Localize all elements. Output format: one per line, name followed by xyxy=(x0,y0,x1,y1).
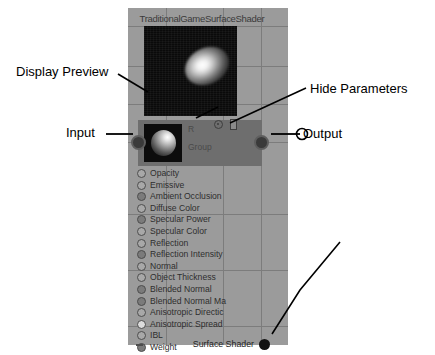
display-preview[interactable] xyxy=(144,26,237,116)
parameter-label: Blended Normal Ma xyxy=(150,296,226,308)
parameter-row[interactable]: Object Thickness xyxy=(136,272,272,284)
parameter-port[interactable] xyxy=(137,285,146,294)
parameter-port[interactable] xyxy=(137,320,146,329)
output-port[interactable] xyxy=(254,135,269,150)
output-label: Surface Shader xyxy=(193,338,254,351)
parameter-label: Normal xyxy=(150,261,178,273)
hide-parameters-icon[interactable] xyxy=(230,119,237,130)
parameter-row[interactable]: Reflection Intensity xyxy=(136,249,272,261)
shader-node[interactable]: TraditionalGameSurfaceShader R Group Opa… xyxy=(132,12,272,340)
parameter-row[interactable]: Anisotropic Spread xyxy=(136,319,272,331)
parameter-label: Diffuse Color xyxy=(150,203,200,215)
parameter-row[interactable]: Diffuse Color xyxy=(136,203,272,215)
node-title: TraditionalGameSurfaceShader xyxy=(132,12,272,25)
annotation-output: Output xyxy=(303,126,342,141)
parameter-port[interactable] xyxy=(137,192,146,201)
material-sphere-thumbnail[interactable] xyxy=(144,124,182,162)
parameter-row[interactable]: Blended Normal Ma xyxy=(136,296,272,308)
parameter-label: Reflection xyxy=(150,238,188,250)
input-port[interactable] xyxy=(131,135,146,150)
parameter-row[interactable]: Reflection xyxy=(136,238,272,250)
annotation-input: Input xyxy=(66,125,95,140)
parameter-row[interactable]: Anisotropic Directic xyxy=(136,307,272,319)
surface-shader-output-port[interactable] xyxy=(259,339,270,350)
parameter-label: Blended Normal xyxy=(150,284,212,296)
parameter-port[interactable] xyxy=(137,181,146,190)
parameter-port[interactable] xyxy=(137,308,146,317)
parameter-row[interactable]: Emissive xyxy=(136,180,272,192)
parameter-label: Reflection Intensity xyxy=(150,249,223,261)
annotation-hide-parameters: Hide Parameters xyxy=(310,81,408,96)
parameter-row[interactable]: Ambient Occlusion xyxy=(136,191,272,203)
parameter-label: Ambient Occlusion xyxy=(150,191,222,203)
parameter-port[interactable] xyxy=(137,204,146,213)
parameter-label: Emissive xyxy=(150,180,184,192)
parameter-label: Specular Color xyxy=(150,226,207,238)
gear-icon[interactable] xyxy=(214,120,223,129)
parameter-label: Opacity xyxy=(150,168,179,180)
parameter-label: Specular Power xyxy=(150,214,211,226)
parameter-list: OpacityEmissiveAmbient OcclusionDiffuse … xyxy=(136,168,272,354)
output-row[interactable]: Surface Shader xyxy=(136,338,272,351)
parameter-row[interactable]: Specular Color xyxy=(136,226,272,238)
output-tick xyxy=(136,344,143,346)
node-header-strip: R Group xyxy=(138,120,262,166)
parameter-port[interactable] xyxy=(137,262,146,271)
parameter-row[interactable]: Specular Power xyxy=(136,214,272,226)
parameter-row[interactable]: Blended Normal xyxy=(136,284,272,296)
parameter-port[interactable] xyxy=(137,239,146,248)
sphere-icon xyxy=(151,130,176,156)
parameter-port[interactable] xyxy=(137,227,146,236)
annotation-display-preview: Display Preview xyxy=(16,64,108,79)
shader-node-diagram: TraditionalGameSurfaceShader R Group Opa… xyxy=(0,0,435,355)
node-header-label-r: R xyxy=(188,124,194,134)
parameter-port[interactable] xyxy=(137,273,146,282)
parameter-port[interactable] xyxy=(137,250,146,259)
node-header-label-group: Group xyxy=(188,142,212,152)
parameter-label: Anisotropic Directic xyxy=(150,307,224,319)
parameter-port[interactable] xyxy=(137,169,146,178)
parameter-port[interactable] xyxy=(137,297,146,306)
parameter-label: Anisotropic Spread xyxy=(150,319,223,331)
parameter-port[interactable] xyxy=(137,215,146,224)
parameter-label: Object Thickness xyxy=(150,272,216,284)
parameter-row[interactable]: Opacity xyxy=(136,168,272,180)
parameter-row[interactable]: Normal xyxy=(136,261,272,273)
